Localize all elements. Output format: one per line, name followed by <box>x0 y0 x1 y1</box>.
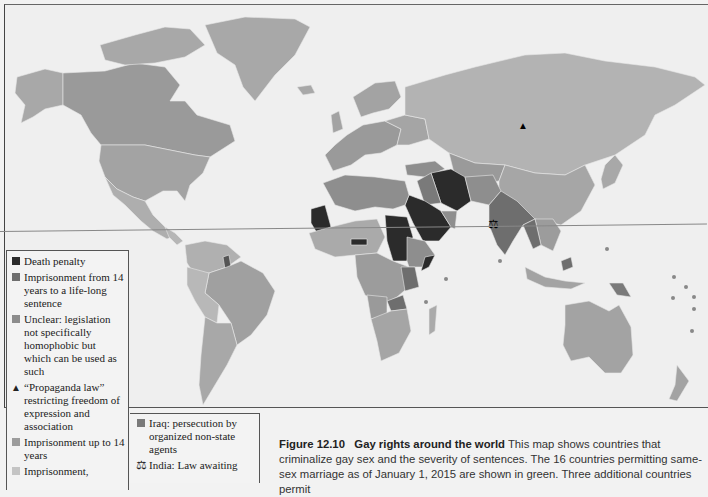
japan <box>601 155 623 189</box>
law-awaiting-marker-icon: ⚖ <box>488 217 499 232</box>
island-dot <box>690 329 694 333</box>
legend-item-death-penalty: Death penalty <box>12 255 125 268</box>
legend-label: Death penalty <box>24 255 85 268</box>
legend-item-propaganda-law: ▲ “Propaganda law” restricting freedom o… <box>12 381 125 433</box>
australia <box>563 301 633 373</box>
north-africa <box>323 175 409 211</box>
papua <box>609 283 631 297</box>
legend-label: Imprisonment up to 14 years <box>24 436 125 462</box>
life-sentence-swatch-icon <box>12 273 20 281</box>
new-zealand <box>669 365 689 401</box>
southern-africa <box>371 309 411 361</box>
island-dot <box>498 259 502 263</box>
indonesia <box>525 267 585 289</box>
canada-islands <box>100 27 205 65</box>
scandinavia <box>353 81 401 117</box>
warning-triangle-icon: ▲ <box>11 381 21 394</box>
island-dot <box>605 247 609 251</box>
madagascar <box>429 305 437 335</box>
legend-item-unclear: Unclear: legislation not specifically ho… <box>12 313 125 378</box>
legend-label: Imprisonment from 14 years to a life-lon… <box>24 271 125 310</box>
greenland <box>205 17 310 101</box>
figure-title: Gay rights around the world <box>354 438 505 450</box>
malaysia <box>561 257 573 271</box>
legend-item-india: ⚖ India: Law awaiting <box>137 459 257 472</box>
legend-item-imprisonment: Imprisonment, <box>12 465 125 478</box>
unclear-swatch-icon <box>12 315 20 323</box>
legend-label: India: Law awaiting <box>149 459 238 472</box>
propaganda-law-marker-icon: ▲ <box>518 120 528 131</box>
island-dot <box>444 277 448 281</box>
scales-icon: ⚖ <box>136 459 146 472</box>
legend-label: Imprisonment, <box>24 465 88 478</box>
legend-secondary: Iraq: persecution by organized non-state… <box>130 413 260 483</box>
uk <box>331 111 343 133</box>
legend-item-iraq: Iraq: persecution by organized non-state… <box>137 417 257 456</box>
alaska <box>15 69 63 123</box>
argentina-chile <box>199 317 237 405</box>
imprisonment-swatch-icon <box>12 467 20 475</box>
death-penalty-swatch-icon <box>12 257 20 265</box>
figure-label: Figure 12.10 <box>279 438 345 450</box>
legend-label: Iraq: persecution by organized non-state… <box>149 417 257 456</box>
legend-label: “Propaganda law” restricting freedom of … <box>24 381 125 433</box>
figure-caption: Figure 12.10 Gay rights around the world… <box>279 437 707 497</box>
nigeria <box>351 239 367 245</box>
island-dot <box>424 300 428 304</box>
iceland <box>297 85 315 95</box>
island-dot <box>671 296 675 300</box>
island-dot <box>692 295 696 299</box>
island-dot <box>672 275 676 279</box>
legend: Death penalty Imprisonment from 14 years… <box>6 250 129 490</box>
canada <box>63 63 235 157</box>
legend-item-up-to-14: Imprisonment up to 14 years <box>12 436 125 462</box>
iraq-swatch-icon <box>137 419 145 427</box>
island-dot <box>692 307 696 311</box>
up-to-14-swatch-icon <box>12 438 20 446</box>
island-dot <box>684 285 688 289</box>
legend-item-life-sentence: Imprisonment from 14 years to a life-lon… <box>12 271 125 310</box>
legend-label: Unclear: legislation not specifically ho… <box>24 313 125 378</box>
